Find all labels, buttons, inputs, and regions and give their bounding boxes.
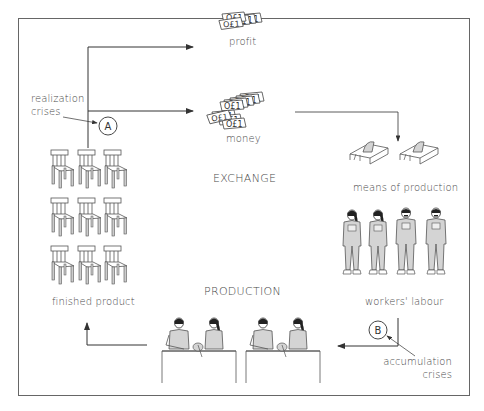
worker-in-overalls-icon (343, 208, 446, 274)
realization-crises-label-1: realization (31, 93, 84, 104)
profit-label: profit (229, 36, 256, 47)
realization-crises-label-2: crises (31, 106, 61, 117)
crisis-marker-b: B (369, 321, 415, 356)
flow-diagram: O£1 (0, 0, 484, 411)
svg-text:A: A (105, 121, 112, 132)
accumulation-crises-label-2: crises (422, 369, 452, 380)
production-section-label: PRODUCTION (204, 285, 281, 298)
exchange-section-label: EXCHANGE (213, 172, 276, 185)
banknotes-large-stack-icon (207, 92, 264, 129)
workers-labour-label: workers' labour (365, 296, 444, 307)
arrow-labour-to-production (338, 318, 398, 346)
finished-product-label: finished product (52, 296, 135, 307)
accumulation-crises-label-1: accumulation (383, 356, 452, 367)
crisis-marker-a: A (63, 117, 117, 135)
arrow-production-to-finished (87, 323, 147, 345)
banknotes-small-stack-icon (219, 12, 262, 30)
money-label: money (226, 133, 261, 144)
arrow-money-to-means (295, 112, 398, 141)
table-saw-icon (350, 142, 438, 164)
svg-text:B: B (375, 325, 382, 336)
chair-icon (51, 150, 127, 284)
means-of-production-label: means of production (353, 182, 458, 193)
workers-at-bench-icon (162, 318, 320, 383)
